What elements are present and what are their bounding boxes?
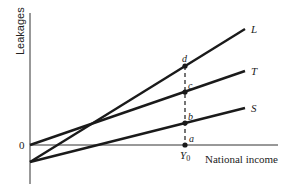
equilibrium-label: Y0 <box>180 149 190 163</box>
point-label-c: c <box>188 80 193 91</box>
point-c <box>182 89 187 94</box>
x-axis-label: National income <box>205 153 278 165</box>
origin-label: 0 <box>19 139 25 151</box>
line-L <box>30 29 245 162</box>
point-label-a: a <box>189 133 194 144</box>
equilibrium-label-subscript: 0 <box>186 154 190 163</box>
line-label-S: S <box>251 102 257 114</box>
point-d <box>182 63 187 68</box>
point-a <box>182 142 187 147</box>
point-b <box>182 120 187 125</box>
leakages-diagram: Leakages 0 L T S d c b a Y0 National inc… <box>0 0 299 188</box>
line-label-L: L <box>250 23 257 35</box>
y-axis-label: Leakages <box>14 7 26 55</box>
point-label-d: d <box>182 53 188 64</box>
line-label-T: T <box>251 65 258 77</box>
point-label-b: b <box>188 111 193 122</box>
